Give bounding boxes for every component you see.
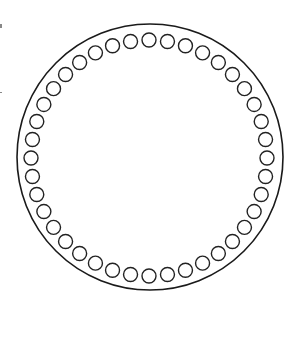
small-circle <box>25 169 39 183</box>
small-circle <box>59 234 73 248</box>
small-circle <box>160 268 174 282</box>
small-circle <box>88 46 102 60</box>
small-circle <box>260 151 274 165</box>
small-circle <box>30 115 44 129</box>
small-circle <box>73 246 87 260</box>
outer-circle <box>17 24 283 290</box>
small-circle <box>254 115 268 129</box>
small-circle <box>196 46 210 60</box>
small-circle <box>211 56 225 70</box>
small-circle <box>196 256 210 270</box>
small-circle <box>124 34 138 48</box>
small-circle <box>225 234 239 248</box>
small-circle <box>247 97 261 111</box>
small-circle <box>160 34 174 48</box>
small-circle <box>37 97 51 111</box>
small-circle <box>106 39 120 53</box>
edge-artifact <box>0 92 2 93</box>
small-circle <box>237 82 251 96</box>
small-circle <box>211 246 225 260</box>
small-circle-ring <box>24 33 274 283</box>
small-circle <box>259 133 273 147</box>
small-circle <box>247 205 261 219</box>
small-circle <box>59 68 73 82</box>
small-circle <box>225 68 239 82</box>
small-circle <box>24 151 38 165</box>
small-circle <box>142 33 156 47</box>
small-circle <box>88 256 102 270</box>
small-circle <box>25 133 39 147</box>
small-circle <box>106 263 120 277</box>
small-circle <box>178 39 192 53</box>
small-circle <box>47 220 61 234</box>
small-circle <box>259 169 273 183</box>
small-circle <box>237 220 251 234</box>
ring-diagram <box>0 0 296 341</box>
edge-artifact <box>0 24 2 28</box>
small-circle <box>30 187 44 201</box>
small-circle <box>37 205 51 219</box>
small-circle <box>73 56 87 70</box>
small-circle <box>178 263 192 277</box>
small-circle <box>124 268 138 282</box>
small-circle <box>142 269 156 283</box>
small-circle <box>47 82 61 96</box>
small-circle <box>254 187 268 201</box>
